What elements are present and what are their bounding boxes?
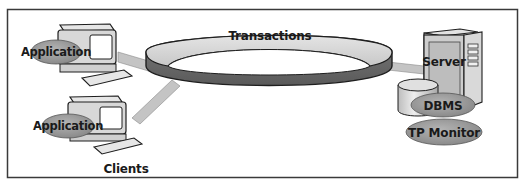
tp-monitor-component: TP Monitor	[406, 119, 482, 145]
tp-monitor-label: TP Monitor	[408, 126, 480, 140]
ring-label: Transactions	[228, 29, 311, 43]
server-label: Server	[422, 55, 466, 69]
application-label-1: Application	[21, 45, 91, 59]
monitor-base	[60, 64, 116, 72]
dbms-component: DBMS	[411, 93, 475, 117]
client-server-diagram: Transactions Application Application Cli…	[0, 0, 525, 190]
dbms-label: DBMS	[424, 99, 463, 113]
clients-label: Clients	[103, 162, 148, 176]
application-label-2: Application	[33, 119, 103, 133]
monitor-screen	[100, 107, 122, 129]
monitor-screen	[90, 35, 112, 59]
